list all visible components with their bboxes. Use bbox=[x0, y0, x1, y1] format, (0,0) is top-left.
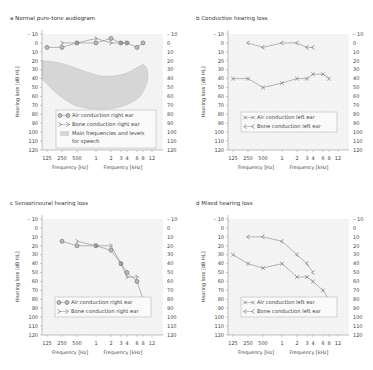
audiogram-chart: – 10– 1000101020203030404050506060707080… bbox=[186, 185, 372, 370]
panel-c: c Sensorineural hearing loss – 10– 10001… bbox=[0, 185, 186, 370]
audiogram-chart: – 10– 1000101020203030404050506060707080… bbox=[186, 0, 372, 185]
svg-text:Frequency [kHz]: Frequency [kHz] bbox=[290, 350, 329, 355]
svg-text:30: 30 bbox=[32, 251, 38, 257]
svg-text:125: 125 bbox=[228, 340, 238, 346]
svg-text:30: 30 bbox=[167, 66, 173, 72]
svg-text:0: 0 bbox=[353, 225, 356, 231]
svg-text:120: 120 bbox=[353, 147, 363, 153]
svg-text:500: 500 bbox=[258, 155, 268, 161]
svg-text:10: 10 bbox=[32, 234, 38, 240]
svg-text:70: 70 bbox=[218, 287, 224, 293]
svg-text:120: 120 bbox=[353, 332, 363, 338]
svg-text:110: 110 bbox=[167, 323, 177, 329]
svg-text:12: 12 bbox=[149, 155, 155, 161]
svg-text:100: 100 bbox=[214, 314, 224, 320]
svg-text:250: 250 bbox=[243, 155, 253, 161]
svg-text:3: 3 bbox=[305, 155, 308, 161]
svg-text:110: 110 bbox=[167, 138, 177, 144]
audiogram-chart: – 10– 1000101020203030404050506060707080… bbox=[0, 0, 186, 185]
svg-text:0: 0 bbox=[167, 40, 170, 46]
svg-text:– 10: – 10 bbox=[28, 31, 38, 37]
svg-text:for speech: for speech bbox=[72, 138, 99, 145]
svg-text:0: 0 bbox=[221, 225, 224, 231]
svg-text:30: 30 bbox=[218, 66, 224, 72]
svg-text:120: 120 bbox=[167, 147, 177, 153]
svg-text:90: 90 bbox=[32, 120, 38, 126]
svg-text:40: 40 bbox=[32, 260, 38, 266]
svg-text:Bone conduction right ear: Bone conduction right ear bbox=[71, 308, 139, 315]
svg-text:0: 0 bbox=[221, 40, 224, 46]
svg-text:Hearing loss [dB HL]: Hearing loss [dB HL] bbox=[14, 66, 21, 117]
svg-text:– 10: – 10 bbox=[28, 216, 38, 222]
svg-text:500: 500 bbox=[72, 340, 82, 346]
svg-text:Air conduction left ear: Air conduction left ear bbox=[257, 299, 316, 305]
svg-text:6: 6 bbox=[321, 155, 324, 161]
svg-text:80: 80 bbox=[218, 111, 224, 117]
svg-text:500: 500 bbox=[72, 155, 82, 161]
svg-text:12: 12 bbox=[335, 155, 341, 161]
svg-text:4: 4 bbox=[125, 155, 128, 161]
svg-text:Bone conduction right ear: Bone conduction right ear bbox=[72, 121, 140, 128]
svg-text:3: 3 bbox=[119, 155, 122, 161]
svg-text:0: 0 bbox=[353, 40, 356, 46]
svg-text:Frequency [Hz]: Frequency [Hz] bbox=[52, 165, 88, 170]
svg-text:Hearing loss [dB HL]: Hearing loss [dB HL] bbox=[200, 66, 207, 117]
svg-text:90: 90 bbox=[32, 305, 38, 311]
svg-text:40: 40 bbox=[167, 260, 173, 266]
svg-text:3: 3 bbox=[305, 340, 308, 346]
svg-text:10: 10 bbox=[32, 49, 38, 55]
svg-text:20: 20 bbox=[218, 243, 224, 249]
svg-text:125: 125 bbox=[42, 155, 52, 161]
svg-text:1: 1 bbox=[280, 340, 283, 346]
svg-text:30: 30 bbox=[353, 66, 359, 72]
svg-text:20: 20 bbox=[218, 58, 224, 64]
svg-text:Bone conduction left ear: Bone conduction left ear bbox=[257, 308, 322, 314]
svg-text:90: 90 bbox=[167, 305, 173, 311]
svg-text:30: 30 bbox=[167, 251, 173, 257]
svg-text:50: 50 bbox=[353, 84, 359, 90]
svg-text:125: 125 bbox=[42, 340, 52, 346]
svg-text:6: 6 bbox=[135, 155, 138, 161]
svg-text:110: 110 bbox=[28, 138, 38, 144]
svg-text:50: 50 bbox=[167, 84, 173, 90]
svg-text:6: 6 bbox=[135, 340, 138, 346]
svg-text:4: 4 bbox=[125, 340, 128, 346]
panel-title: a Normal pure-tone audiogram bbox=[10, 15, 95, 21]
svg-text:250: 250 bbox=[57, 155, 67, 161]
svg-text:10: 10 bbox=[218, 49, 224, 55]
svg-text:50: 50 bbox=[218, 269, 224, 275]
svg-text:Air conduction right ear: Air conduction right ear bbox=[71, 299, 133, 306]
svg-text:80: 80 bbox=[32, 111, 38, 117]
panel-d: d Mixed hearing loss – 10– 1000101020203… bbox=[186, 185, 372, 370]
svg-text:2: 2 bbox=[109, 340, 112, 346]
svg-text:120: 120 bbox=[167, 332, 177, 338]
svg-text:– 10: – 10 bbox=[353, 31, 363, 37]
svg-text:500: 500 bbox=[258, 340, 268, 346]
svg-text:10: 10 bbox=[353, 234, 359, 240]
audiogram-chart: – 10– 1000101020203030404050506060707080… bbox=[0, 185, 186, 370]
svg-text:20: 20 bbox=[32, 243, 38, 249]
svg-text:90: 90 bbox=[167, 120, 173, 126]
svg-text:50: 50 bbox=[32, 84, 38, 90]
svg-text:10: 10 bbox=[218, 234, 224, 240]
svg-text:80: 80 bbox=[32, 296, 38, 302]
svg-text:110: 110 bbox=[353, 323, 363, 329]
svg-text:Frequency [Hz]: Frequency [Hz] bbox=[52, 350, 88, 355]
svg-text:4: 4 bbox=[311, 155, 314, 161]
svg-text:90: 90 bbox=[218, 120, 224, 126]
svg-text:120: 120 bbox=[214, 332, 224, 338]
svg-text:Frequency [kHz]: Frequency [kHz] bbox=[290, 165, 329, 170]
svg-text:Main frequencies and levels: Main frequencies and levels bbox=[72, 130, 145, 137]
svg-text:Bone conduction left ear: Bone conduction left ear bbox=[257, 123, 322, 129]
svg-text:80: 80 bbox=[353, 296, 359, 302]
svg-text:10: 10 bbox=[167, 234, 173, 240]
svg-text:10: 10 bbox=[353, 49, 359, 55]
svg-text:Hearing loss [dB HL]: Hearing loss [dB HL] bbox=[200, 251, 207, 302]
panel-title: d Mixed hearing loss bbox=[196, 200, 253, 206]
svg-text:50: 50 bbox=[32, 269, 38, 275]
svg-text:Air conduction left ear: Air conduction left ear bbox=[257, 114, 316, 120]
svg-text:Hearing loss [dB HL]: Hearing loss [dB HL] bbox=[14, 251, 21, 302]
svg-text:250: 250 bbox=[243, 340, 253, 346]
svg-text:Frequency [Hz]: Frequency [Hz] bbox=[238, 165, 274, 170]
svg-text:60: 60 bbox=[218, 278, 224, 284]
